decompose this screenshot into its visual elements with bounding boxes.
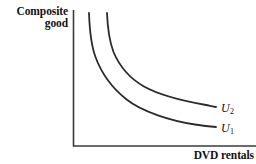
curve-label-u2-subscript: 2 — [230, 107, 234, 116]
curve-label-u2: U2 — [221, 101, 234, 116]
curve-label-u2-letter: U — [221, 101, 230, 115]
y-axis-label-line-2: good — [0, 17, 68, 29]
curve-label-u1: U1 — [221, 121, 234, 136]
curve-label-u1-letter: U — [221, 121, 230, 135]
indifference-curve-u2 — [107, 13, 216, 107]
y-axis-label-line-1: Composite — [0, 5, 68, 17]
y-axis-label: Composite good — [0, 5, 68, 30]
curve-label-u1-subscript: 1 — [230, 127, 234, 136]
indifference-curve-figure: Composite good DVD rentals U2 U1 — [0, 0, 256, 164]
x-axis-label: DVD rentals — [166, 149, 254, 161]
